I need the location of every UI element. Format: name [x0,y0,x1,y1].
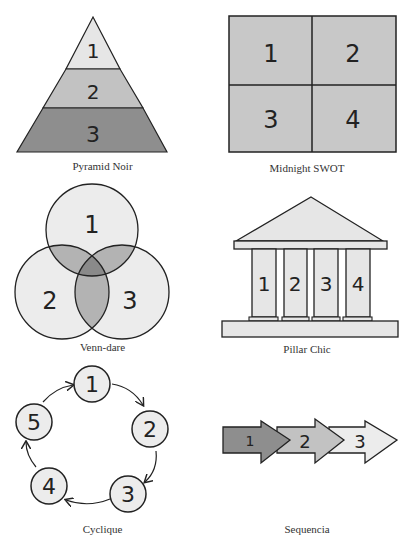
pillar-chic-diagram[interactable]: 1 2 3 4 Pillar Chic [205,185,409,370]
venn-label-2: 2 [42,287,57,315]
caption-venn: Venn-dare [0,341,205,353]
sequence-label-1: 1 [246,433,255,449]
cycle-label-1: 1 [85,372,99,397]
cyclique-diagram[interactable]: 1 2 3 4 5 Cyclique [0,365,205,549]
caption-swot: Midnight SWOT [205,162,409,174]
swot-graphic: 1 2 3 4 [205,0,409,185]
pillar-label-2: 2 [289,272,302,296]
cycle-label-4: 4 [42,474,56,499]
pyramid-graphic: 1 2 3 [0,0,205,185]
cycle-graphic: 1 2 3 4 5 [0,365,205,549]
sequence-label-3: 3 [354,431,365,452]
swot-label-1: 1 [263,40,278,68]
caption-pyramid: Pyramid Noir [0,160,205,172]
sequencia-diagram[interactable]: 1 2 3 Sequencia [205,365,409,549]
swot-label-4: 4 [345,106,360,134]
venn-label-3: 3 [122,287,137,315]
venn-label-1: 1 [84,211,99,239]
cycle-label-3: 3 [121,482,135,507]
pyramid-label-1: 1 [87,39,100,63]
pyramid-label-2: 2 [87,80,100,104]
pyramid-noir-diagram[interactable]: 1 2 3 Pyramid Noir [0,0,205,185]
cycle-label-5: 5 [27,410,41,435]
pillar-label-3: 3 [320,272,333,296]
caption-sequence: Sequencia [205,523,409,535]
sequence-label-2: 2 [299,431,310,452]
midnight-swot-diagram[interactable]: 1 2 3 4 Midnight SWOT [205,0,409,185]
venn-dare-diagram[interactable]: 1 2 3 Venn-dare [0,185,205,370]
swot-label-3: 3 [263,106,278,134]
pyramid-label-3: 3 [86,122,100,147]
pillar-label-4: 4 [352,272,365,296]
swot-label-2: 2 [345,40,360,68]
sequence-graphic: 1 2 3 [205,365,409,549]
pillar-label-1: 1 [258,272,271,296]
caption-cycle: Cyclique [0,523,205,535]
cycle-label-2: 2 [143,417,157,442]
caption-pillar: Pillar Chic [205,343,409,355]
